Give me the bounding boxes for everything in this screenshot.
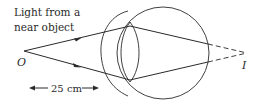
upper-ray-arrow-icon	[74, 38, 82, 42]
object-label: O	[17, 56, 26, 69]
lower-ray-arrow-icon	[73, 63, 81, 68]
upper-ray-refracted	[130, 26, 208, 44]
cornea-outline	[101, 11, 128, 96]
lower-ray-refracted	[130, 62, 208, 80]
distance-label: 25 cm	[51, 83, 83, 94]
image-label: I	[241, 59, 247, 72]
upper-ray-extension	[208, 44, 247, 53]
near-point-eye-diagram: Light from a near object O I 25 cm	[0, 0, 260, 107]
eye-lens	[121, 22, 139, 82]
eyeball-outline	[117, 7, 209, 99]
caption-line-1: Light from a	[14, 6, 80, 18]
caption-line-2: near object	[14, 21, 75, 33]
